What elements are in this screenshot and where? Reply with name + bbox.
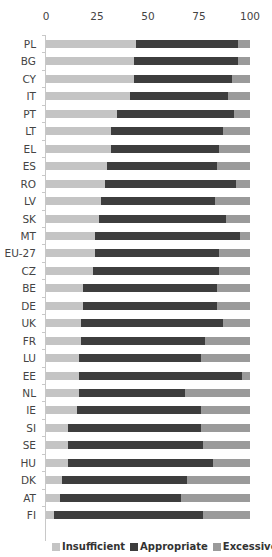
bar-row: EL [0,144,272,154]
stacked-bar [46,197,250,205]
y-tick [42,175,46,176]
bar-segment-appropriate [54,511,203,519]
legend-label: Excessive [223,541,272,552]
bar-segment-appropriate [95,249,219,257]
bar-segment-excessive [205,337,250,345]
bar-row: BG [0,56,272,66]
bar-segment-excessive [228,92,250,100]
bar-segment-excessive [238,40,250,48]
bar-segment-appropriate [111,145,219,153]
bar-segment-excessive [203,441,250,449]
bar-segment-excessive [187,476,250,484]
bar-row: AT [0,493,272,503]
bar-segment-appropriate [79,372,242,380]
bar-segment-excessive [181,494,250,502]
bar-segment-insufficient [46,232,95,240]
bar-row: DK [0,475,272,485]
category-label: PL [0,39,36,49]
y-tick [42,297,46,298]
bar-segment-excessive [223,127,250,135]
stacked-bar [46,494,250,502]
category-label: LU [0,353,36,363]
stacked-bar [46,267,250,275]
bar-segment-excessive [203,511,250,519]
bar-segment-excessive [185,389,250,397]
bar-row: HU [0,458,272,468]
bar-segment-insufficient [46,215,99,223]
bar-segment-appropriate [136,40,238,48]
y-tick [42,419,46,420]
category-label: MT [0,231,36,241]
bar-segment-excessive [201,424,250,432]
bar-segment-excessive [219,145,250,153]
bar-segment-excessive [219,267,250,275]
bar-segment-insufficient [46,406,77,414]
y-tick [42,489,46,490]
bar-segment-insufficient [46,302,83,310]
category-label: RO [0,179,36,189]
bar-segment-insufficient [46,494,60,502]
x-tick-label: 0 [43,10,50,22]
bar-segment-insufficient [46,92,130,100]
bar-segment-insufficient [46,249,95,257]
bar-row: FI [0,510,272,520]
stacked-bar [46,511,250,519]
bar-segment-insufficient [46,389,79,397]
bar-row: FR [0,336,272,346]
bar-segment-insufficient [46,284,83,292]
bar-segment-appropriate [117,110,233,118]
bar-segment-excessive [238,57,250,65]
y-tick [42,87,46,88]
bar-segment-excessive [242,372,250,380]
bar-segment-insufficient [46,424,68,432]
y-tick [42,314,46,315]
bar-row: LV [0,196,272,206]
stacked-bar [46,424,250,432]
bar-row: MT [0,231,272,241]
bar-segment-insufficient [46,476,62,484]
stacked-bar [46,372,250,380]
bar-segment-excessive [217,162,250,170]
category-label: CY [0,74,36,84]
category-label: EE [0,371,36,381]
bar-segment-excessive [217,302,250,310]
category-label: SK [0,214,36,224]
stacked-bar [46,145,250,153]
category-label: SE [0,440,36,450]
bar-segment-appropriate [62,476,186,484]
legend-swatch-appropriate [130,543,138,551]
bar-segment-insufficient [46,127,111,135]
y-tick [42,52,46,53]
category-label: IT [0,91,36,101]
y-tick [42,227,46,228]
bar-segment-appropriate [130,92,228,100]
stacked-bar [46,284,250,292]
bar-segment-insufficient [46,197,101,205]
y-tick [42,210,46,211]
bar-row: SI [0,423,272,433]
bar-segment-insufficient [46,511,54,519]
x-tick-label: 75 [192,10,205,22]
category-label: LV [0,196,36,206]
bar-segment-excessive [201,354,250,362]
legend-item-excessive: Excessive [213,541,272,552]
bar-row: LU [0,353,272,363]
bar-segment-insufficient [46,267,93,275]
bar-row: UK [0,318,272,328]
category-label: UK [0,318,36,328]
y-tick [42,506,46,507]
stacked-bar [46,232,250,240]
bar-row: DE [0,301,272,311]
bar-segment-excessive [240,232,250,240]
stacked-bar [46,180,250,188]
bar-segment-excessive [232,75,250,83]
bar-segment-appropriate [81,319,224,327]
bar-segment-excessive [234,110,250,118]
stacked-bar [46,75,250,83]
bar-segment-appropriate [134,57,238,65]
category-label: SI [0,423,36,433]
legend-item-appropriate: Appropriate [130,541,208,552]
bar-segment-appropriate [79,389,185,397]
bar-segment-insufficient [46,372,79,380]
bar-row: SE [0,440,272,450]
